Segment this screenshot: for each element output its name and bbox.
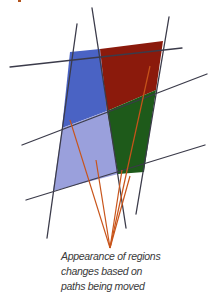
caption-line-2: changes based on <box>61 264 211 279</box>
pointer-to-green-left <box>110 170 122 248</box>
painted-regions <box>53 41 163 191</box>
caption-line-3: paths being moved <box>61 279 211 294</box>
caption-line-1: Appearance of regions <box>61 249 211 264</box>
callout-caption: Appearance of regions changes based on p… <box>61 249 211 294</box>
